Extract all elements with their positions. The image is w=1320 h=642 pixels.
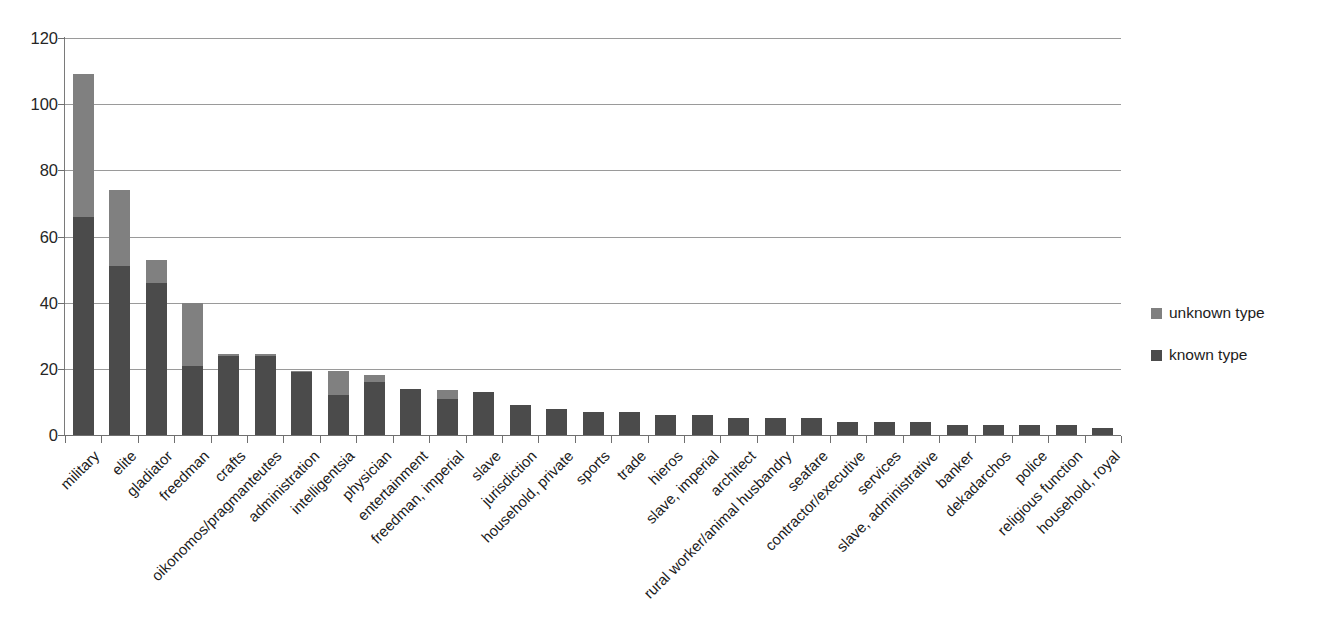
bar-segment-known [400,389,421,435]
y-tick-label-100: 100 [10,95,58,114]
x-tick-mark-25 [975,436,976,443]
x-tick-mark-15 [611,436,612,443]
x-tick-mark-27 [1048,436,1049,443]
bar-segment-known [874,422,895,435]
x-tick-mark-19 [757,436,758,443]
bar-segment-unknown [437,390,458,398]
y-tick-mark-120 [58,38,65,39]
y-tick-label-80: 80 [10,161,58,180]
bar-segment-unknown [109,190,130,266]
x-tick-mark-3 [174,436,175,443]
bar-segment-known [510,405,531,435]
x-tick-mark-18 [720,436,721,443]
bar-segment-unknown [291,371,312,373]
bar-freedman-imperial[interactable] [437,390,458,435]
bar-segment-unknown [73,74,94,216]
bar-segment-known [255,356,276,435]
bar-slave-imperial[interactable] [692,415,713,435]
plot-area [65,38,1121,435]
bar-administration[interactable] [291,371,312,436]
x-tick-mark-21 [830,436,831,443]
x-axis-label-elite: elite [108,447,139,478]
bar-rural-worker-animal-husbandry[interactable] [765,418,786,435]
chart-legend: unknown typeknown type [1151,300,1311,384]
bar-segment-known [837,422,858,435]
bar-segment-known [182,366,203,435]
bar-military[interactable] [73,74,94,435]
legend-item-unknown-type[interactable]: unknown type [1151,300,1311,326]
bar-religious-function[interactable] [1056,425,1077,435]
x-tick-mark-10 [429,436,430,443]
y-tick-mark-100 [58,104,65,105]
bar-police[interactable] [1019,425,1040,435]
bar-segment-known [218,356,239,435]
bar-architect[interactable] [728,418,749,435]
bar-intelligentsia[interactable] [328,371,349,436]
bar-segment-known [291,372,312,435]
bar-jurisdiction[interactable] [510,405,531,435]
bar-segment-known [146,283,167,435]
bar-slave[interactable] [473,392,494,435]
x-tick-mark-11 [466,436,467,443]
bar-segment-known [801,418,822,435]
x-axis-label-military: military [57,447,103,493]
x-tick-mark-6 [283,436,284,443]
x-tick-mark-28 [1085,436,1086,443]
bar-household-private[interactable] [546,409,567,435]
x-tick-mark-20 [793,436,794,443]
y-tick-label-20: 20 [10,359,58,378]
y-tick-mark-0 [58,435,65,436]
bar-segment-known [1056,425,1077,435]
bar-gladiator[interactable] [146,260,167,435]
x-tick-mark-8 [356,436,357,443]
legend-swatch-icon [1151,308,1162,319]
bar-segment-known [619,412,640,435]
x-tick-mark-4 [211,436,212,443]
legend-item-known-type[interactable]: known type [1151,342,1311,368]
bar-freedman[interactable] [182,303,203,435]
y-tick-label-40: 40 [10,293,58,312]
bar-hieros[interactable] [655,415,676,435]
bar-sports[interactable] [583,412,604,435]
bar-slave-administrative[interactable] [910,422,931,435]
bar-trade[interactable] [619,412,640,435]
bar-segment-known [910,422,931,435]
x-tick-mark-14 [575,436,576,443]
legend-swatch-icon [1151,350,1162,361]
bar-segment-known [546,409,567,435]
bar-seafare[interactable] [801,418,822,435]
x-axis-label-trade: trade [613,447,649,483]
x-tick-mark-22 [866,436,867,443]
bar-elite[interactable] [109,190,130,435]
x-tick-mark-24 [939,436,940,443]
bar-segment-known [328,395,349,435]
bars-layer [65,38,1121,435]
x-tick-mark-5 [247,436,248,443]
bar-segment-known [765,418,786,435]
bar-segment-unknown [255,354,276,356]
x-tick-mark-26 [1012,436,1013,443]
y-tick-label-60: 60 [10,227,58,246]
bar-segment-known [109,266,130,435]
bar-segment-unknown [146,260,167,283]
bar-crafts[interactable] [218,354,239,435]
legend-label: known type [1169,346,1247,364]
bar-segment-known [583,412,604,435]
bar-segment-known [983,425,1004,435]
y-tick-label-120: 120 [10,29,58,48]
bar-banker[interactable] [947,425,968,435]
y-tick-mark-60 [58,237,65,238]
bar-services[interactable] [874,422,895,435]
y-tick-label-0: 0 [10,426,58,445]
bar-segment-known [364,382,385,435]
x-tick-mark-2 [138,436,139,443]
bar-contractor-executive[interactable] [837,422,858,435]
x-tick-mark-end [1121,436,1122,443]
bar-physician[interactable] [364,375,385,435]
y-tick-mark-20 [58,369,65,370]
x-axis-label-sports: sports [572,447,613,488]
bar-household-royal[interactable] [1092,428,1113,435]
bar-oikonomos-pragmanteutes[interactable] [255,354,276,435]
bar-entertainment[interactable] [400,389,421,435]
bar-dekadarchos[interactable] [983,425,1004,435]
